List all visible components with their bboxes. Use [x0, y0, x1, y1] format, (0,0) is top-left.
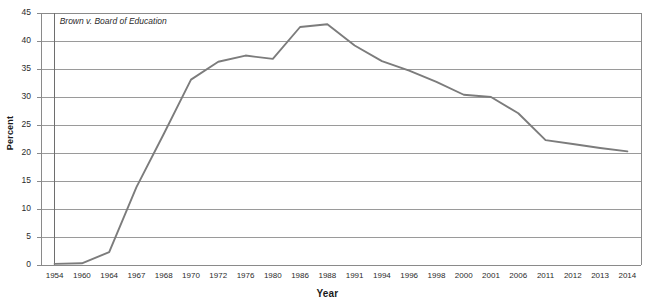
x-tick-label: 1970 [177, 272, 205, 280]
x-tick-label: 2011 [532, 272, 560, 280]
y-tick-label: 30 [5, 92, 31, 101]
x-tick-label: 1964 [95, 272, 123, 280]
y-tick-label: 15 [5, 176, 31, 185]
x-tick-label: 1960 [68, 272, 96, 280]
x-tick-label: 2012 [559, 272, 587, 280]
y-tick-label: 20 [5, 148, 31, 157]
x-tick-label: 2014 [613, 272, 641, 280]
annotation-label-brown-v-board: Brown v. Board of Education [60, 16, 167, 26]
y-tick-label: 40 [5, 36, 31, 45]
x-tick-label: 2006 [504, 272, 532, 280]
x-tick-label: 1954 [41, 272, 69, 280]
plot-area [0, 0, 655, 307]
x-tick-label: 1986 [286, 272, 314, 280]
x-tick-label: 1998 [422, 272, 450, 280]
y-tick-label: 0 [5, 260, 31, 269]
data-series [55, 24, 628, 264]
y-tick-label: 45 [5, 8, 31, 17]
y-tick-label: 35 [5, 64, 31, 73]
x-tick-label: 2013 [586, 272, 614, 280]
y-tick-label: 5 [5, 232, 31, 241]
x-tick-label: 1991 [341, 272, 369, 280]
x-tick-label: 1972 [204, 272, 232, 280]
x-tick-label: 1968 [150, 272, 178, 280]
y-tick-label: 10 [5, 204, 31, 213]
x-tick-label: 2001 [477, 272, 505, 280]
x-tick-label: 1976 [232, 272, 260, 280]
gridlines [37, 13, 641, 265]
y-tick-label: 25 [5, 120, 31, 129]
series-line [55, 24, 628, 264]
x-tick-label: 1980 [259, 272, 287, 280]
x-tick-label: 1988 [313, 272, 341, 280]
x-tick-label: 1996 [395, 272, 423, 280]
plot-frame [41, 13, 641, 265]
x-axis-title: Year [0, 288, 655, 299]
x-tick-label: 2000 [450, 272, 478, 280]
x-tick-label: 1994 [368, 272, 396, 280]
chart-container: Percent Year 051015202530354045 19541960… [0, 0, 655, 307]
x-tick-label: 1967 [122, 272, 150, 280]
